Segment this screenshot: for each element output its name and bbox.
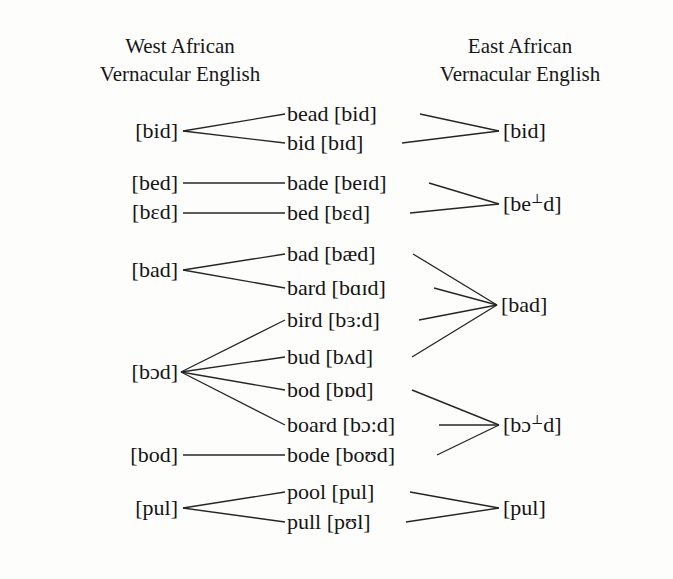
lexeme-node-m-board: board [bɔ:d]: [287, 413, 395, 437]
column-title-east-african: East African Vernacular English: [400, 32, 640, 88]
east-node-r-bed: [be⊥d]: [503, 192, 562, 216]
link-l-bod-to-m-bud: [181, 357, 285, 372]
lexeme-node-m-bard: bard [bɑɪd]: [287, 276, 386, 300]
lexeme-node-m-bod: bod [bɒd]: [287, 378, 374, 402]
links-lexeme-to-east: [402, 114, 499, 522]
lexeme-node-m-bad: bad [bæd]: [287, 242, 376, 266]
lexeme-node-m-bud: bud [bʌd]: [287, 345, 373, 369]
east-title-line1: East African: [400, 32, 640, 60]
link-m-bud-to-r-bad: [412, 305, 497, 357]
lexeme-node-m-bade: bade [beɪd]: [287, 171, 387, 195]
link-m-bed-to-r-bed: [410, 204, 499, 213]
west-title-line2: Vernacular English: [60, 60, 300, 88]
link-m-bird-to-r-bad: [419, 305, 497, 320]
east-node-r-bod: [bɔ⊥d]: [503, 413, 562, 437]
link-l-bod-to-m-bird: [181, 320, 285, 372]
west-node-l-bod: [bɔd]: [58, 360, 178, 384]
link-l-bid-to-m-bead: [183, 114, 285, 131]
east-title-line2: Vernacular English: [400, 60, 640, 88]
link-l-bid-to-m-bid: [183, 131, 285, 143]
lexeme-node-m-pool: pool [pul]: [287, 480, 374, 504]
lexeme-node-m-bed: bed [bɛd]: [287, 201, 370, 225]
link-m-bade-to-r-bed: [429, 183, 499, 204]
link-l-pul-to-m-pull: [183, 508, 285, 522]
link-m-bode-to-r-bod: [437, 425, 499, 455]
link-l-bad-to-m-bard: [183, 270, 285, 288]
lexeme-node-m-bode: bode [boʊd]: [287, 443, 395, 467]
lexeme-node-m-bid: bid [bɪd]: [287, 131, 363, 155]
lexeme-node-m-bead: bead [bid]: [287, 102, 377, 126]
west-node-l-pul: [pul]: [58, 496, 178, 520]
raising-diacritic: ⊥: [531, 412, 543, 427]
link-m-pull-to-r-pul: [406, 508, 499, 522]
link-l-pul-to-m-pool: [183, 492, 285, 508]
link-m-bid-to-r-bid: [402, 131, 499, 143]
column-title-west-african: West African Vernacular English: [60, 32, 300, 88]
lexeme-node-m-bird: bird [bɜ:d]: [287, 308, 380, 332]
link-l-bod-to-m-bod: [181, 372, 285, 390]
link-l-bod-to-m-board: [181, 372, 285, 425]
west-title-line1: West African: [60, 32, 300, 60]
link-m-bod-to-r-bod: [412, 390, 499, 425]
link-m-bead-to-r-bid: [420, 114, 499, 131]
west-node-l-bid: [bid]: [58, 119, 178, 143]
ipa-base: [bɔ: [503, 412, 531, 437]
link-m-bard-to-r-bad: [434, 288, 497, 305]
west-node-l-bed: [bed]: [58, 171, 178, 195]
link-l-bad-to-m-bad: [183, 254, 285, 270]
links-west-to-lexeme: [181, 114, 285, 522]
ipa-coda: d]: [543, 412, 561, 437]
link-m-pool-to-r-pul: [410, 492, 499, 508]
west-node-l-beed: [bɛd]: [58, 200, 178, 224]
raising-diacritic: ⊥: [531, 191, 543, 206]
west-node-l-bad: [bad]: [58, 258, 178, 282]
east-node-r-pul: [pul]: [503, 496, 546, 520]
vowel-merger-diagram: West African Vernacular English East Afr…: [0, 0, 673, 579]
link-m-bad-to-r-bad: [413, 254, 497, 305]
lexeme-node-m-pull: pull [pʊl]: [287, 510, 371, 534]
east-node-r-bad: [bad]: [501, 293, 547, 317]
east-node-r-bid: [bid]: [503, 119, 546, 143]
ipa-base: [be: [503, 191, 531, 216]
ipa-coda: d]: [543, 191, 561, 216]
west-node-l-bode: [bod]: [58, 443, 178, 467]
